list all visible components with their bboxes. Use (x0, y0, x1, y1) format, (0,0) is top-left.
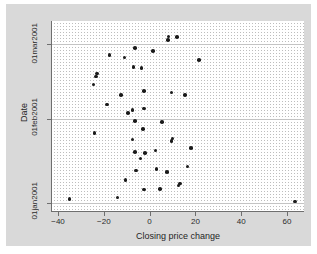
data-point (133, 119, 137, 123)
data-point (155, 167, 159, 171)
gridline-horizontal (52, 203, 304, 204)
y-tick-label: 01mar2001 (30, 23, 40, 63)
data-point (183, 93, 187, 97)
x-tick-label: −40 (51, 217, 65, 227)
data-point (133, 46, 137, 50)
data-point (126, 111, 130, 115)
x-tick-mark (287, 212, 288, 216)
data-point (142, 188, 146, 192)
y-tick-mark (47, 203, 51, 204)
data-point (175, 35, 179, 39)
gridline-horizontal (52, 119, 304, 120)
x-axis-line (52, 211, 304, 212)
y-tick-label: 01jan2001 (30, 182, 40, 219)
x-tick-mark (150, 212, 151, 216)
data-point (108, 53, 112, 57)
data-point (197, 58, 201, 62)
gridline-horizontal (52, 44, 304, 45)
y-tick-mark (47, 119, 51, 120)
data-point (119, 93, 123, 97)
graph-region: −40−200204060 01jan200101feb200101mar200… (6, 4, 311, 246)
data-point (94, 75, 98, 79)
data-point (160, 120, 164, 124)
y-tick-label: 01feb2001 (30, 98, 40, 136)
plot-area (52, 21, 304, 211)
data-point (131, 108, 135, 112)
data-point (151, 49, 155, 53)
x-tick-mark (104, 212, 105, 216)
data-point (189, 146, 193, 150)
x-tick-mark (195, 212, 196, 216)
x-tick-mark (58, 212, 59, 216)
data-point (178, 182, 182, 186)
x-tick-label: 40 (237, 217, 246, 227)
data-point (133, 150, 137, 154)
data-point (158, 187, 162, 191)
data-point (143, 151, 147, 155)
x-tick-label: 60 (283, 217, 292, 227)
x-tick-label: −20 (97, 217, 111, 227)
y-axis-title: Date (19, 103, 29, 122)
x-tick-mark (241, 212, 242, 216)
data-point (68, 197, 72, 201)
data-point (166, 38, 170, 42)
chart-screenshot: −40−200204060 01jan200101feb200101mar200… (0, 0, 317, 254)
data-point (142, 89, 146, 93)
x-axis-title: Closing price change (52, 231, 304, 241)
y-axis-line (51, 21, 52, 212)
data-point (132, 65, 136, 69)
x-tick-label: 0 (147, 217, 151, 227)
y-tick-mark (47, 44, 51, 45)
data-point (141, 127, 145, 131)
data-point (165, 170, 169, 174)
x-tick-label: 20 (191, 217, 200, 227)
